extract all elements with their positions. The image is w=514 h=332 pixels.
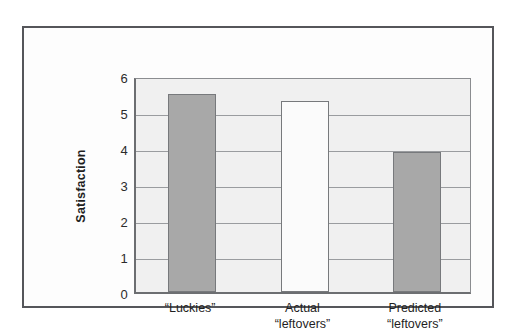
- y-tick-label: 3: [106, 179, 128, 194]
- x-tick-label: Predicted “leftovers”: [359, 300, 471, 332]
- y-tick-label: 5: [106, 107, 128, 122]
- x-tick-label: Actual “leftovers”: [246, 300, 358, 332]
- bar: [393, 152, 441, 292]
- y-tick-label: 1: [106, 251, 128, 266]
- plot-area: [134, 78, 471, 294]
- y-tick-label: 4: [106, 143, 128, 158]
- y-tick-label: 6: [106, 71, 128, 86]
- bar: [168, 94, 216, 292]
- y-axis-tick-labels: 0123456: [102, 78, 128, 294]
- x-tick-label: “Luckies”: [134, 300, 246, 316]
- y-tick-label: 0: [106, 287, 128, 302]
- bar: [281, 101, 329, 292]
- y-axis-title-text: Satisfaction: [74, 149, 88, 222]
- figure-frame: Satisfaction 0123456 “Luckies”Actual “le…: [22, 26, 494, 308]
- y-axis-title: Satisfaction: [71, 78, 91, 294]
- y-tick-label: 2: [106, 215, 128, 230]
